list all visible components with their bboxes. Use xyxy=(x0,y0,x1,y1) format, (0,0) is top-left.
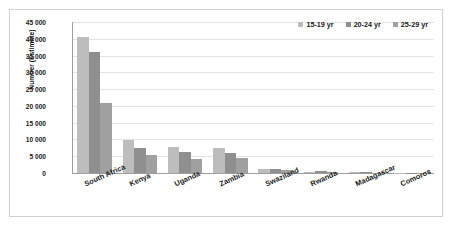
legend-swatch-icon xyxy=(393,22,398,27)
bar xyxy=(134,148,146,173)
y-tick-label: 30 000 xyxy=(2,69,46,76)
bar xyxy=(168,147,180,174)
chart-legend: 15-19 yr20-24 yr25-29 yr xyxy=(298,20,428,29)
bar-group xyxy=(253,22,298,173)
legend-label: 25-29 yr xyxy=(401,20,428,29)
bar xyxy=(394,173,406,174)
bar xyxy=(77,37,89,173)
legend-item[interactable]: 15-19 yr xyxy=(298,20,333,29)
y-tick-label: 10 000 xyxy=(2,136,46,143)
bar xyxy=(349,172,361,173)
legend-swatch-icon xyxy=(346,22,351,27)
plot-area xyxy=(72,22,434,174)
bar xyxy=(179,152,191,173)
bar-group xyxy=(344,22,389,173)
y-tick-label: 0 xyxy=(2,170,46,177)
legend-swatch-icon xyxy=(298,22,303,27)
bar xyxy=(213,148,225,174)
bar-group xyxy=(72,22,117,173)
bars-layer xyxy=(72,22,434,174)
x-axis-labels: South AfricaKenyaUgandaZambiaSwazilandRw… xyxy=(72,176,434,220)
legend-label: 15-19 yr xyxy=(306,20,333,29)
bar xyxy=(89,52,101,173)
bar-group xyxy=(298,22,343,173)
bar-group xyxy=(208,22,253,173)
bar xyxy=(100,103,112,173)
y-tick-label: 25 000 xyxy=(2,86,46,93)
legend-item[interactable]: 25-29 yr xyxy=(393,20,428,29)
bar-group xyxy=(389,22,434,173)
y-tick-label: 5 000 xyxy=(2,153,46,160)
bar-group xyxy=(117,22,162,173)
y-tick-label: 45 000 xyxy=(2,19,46,26)
legend-item[interactable]: 20-24 yr xyxy=(346,20,381,29)
y-tick-label: 15 000 xyxy=(2,119,46,126)
y-tick-label: 40 000 xyxy=(2,35,46,42)
bar-group xyxy=(163,22,208,173)
chart-container: Number (Estimate) South AfricaKenyaUgand… xyxy=(9,9,443,217)
legend-label: 20-24 yr xyxy=(354,20,381,29)
bar xyxy=(225,153,237,173)
y-tick-label: 20 000 xyxy=(2,102,46,109)
y-tick-label: 35 000 xyxy=(2,52,46,59)
bar xyxy=(258,169,270,173)
bar xyxy=(304,172,316,173)
